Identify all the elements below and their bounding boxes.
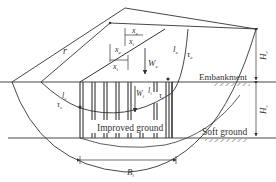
tau-e-label: τe [187,49,193,60]
li-label: li [148,86,152,96]
wi-label: Wi [136,89,145,99]
embankment-slope [80,29,165,82]
soft-ground-hatch [205,139,247,142]
diagram-canvas: r xe xi xe xi We Wi le τe li τi lc τc Em… [0,0,276,182]
xi-mid-label: xi [112,62,119,72]
xe-top-label: xe [131,26,139,36]
bi-label: Bi [127,167,135,178]
slope-stability-diagram: r xe xi xe xi We Wi le τe li τi lc τc Em… [0,0,276,182]
outer-radius-line [12,8,125,82]
slip-point-right [166,77,169,80]
xi-top-label: xi [128,37,135,47]
lc-label: lc [62,91,67,101]
hc-label: Hc [258,105,269,116]
embankment-label: Embankment [199,72,247,82]
soft-ground-label: Soft ground [202,127,247,137]
he-label: He [258,51,269,62]
embankment-hatch [212,83,250,86]
slip-point-left [78,105,81,108]
radius-label: r [63,45,67,56]
improved-ground-label: Improved ground [97,123,163,133]
slip-point-center [109,22,111,24]
we-label: We [148,58,159,69]
xe-mid-label: xe [114,45,122,55]
tau-c-label: τc [57,100,63,110]
tau-i-label: τi [159,91,164,101]
outer-slip-circle [12,29,256,172]
inner-radius-line [41,23,110,82]
le-label: le [173,44,179,55]
